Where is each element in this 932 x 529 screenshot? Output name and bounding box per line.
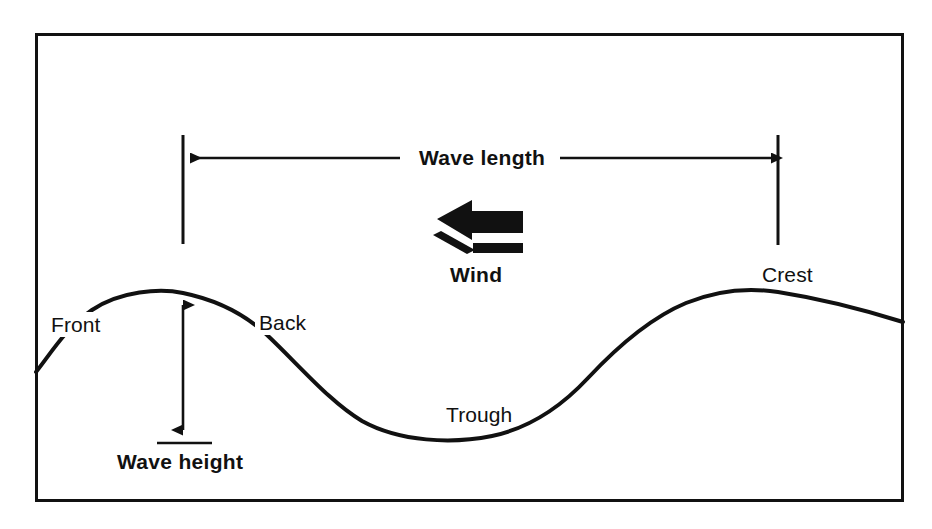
crest-label: Crest (762, 264, 813, 285)
wave-diagram-figure: Wave length Wind Crest Trough Front Back… (0, 0, 932, 529)
wave-length-label: Wave length (419, 147, 545, 168)
wave-height-label: Wave height (117, 451, 243, 472)
trough-label: Trough (446, 404, 512, 425)
wind-arrow-icon (437, 200, 523, 240)
front-label: Front (47, 312, 105, 337)
back-label: Back (255, 310, 310, 335)
wind-label: Wind (450, 264, 502, 285)
wind-arrow-lower-bar-icon (473, 243, 523, 253)
